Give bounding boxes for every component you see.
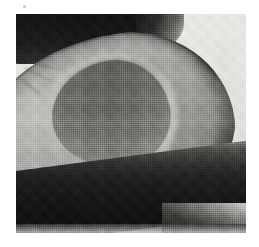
plate-bottom-strip <box>16 224 246 233</box>
figure-root <box>0 0 259 247</box>
print-speck <box>23 5 26 8</box>
photograph-plate <box>16 14 246 233</box>
